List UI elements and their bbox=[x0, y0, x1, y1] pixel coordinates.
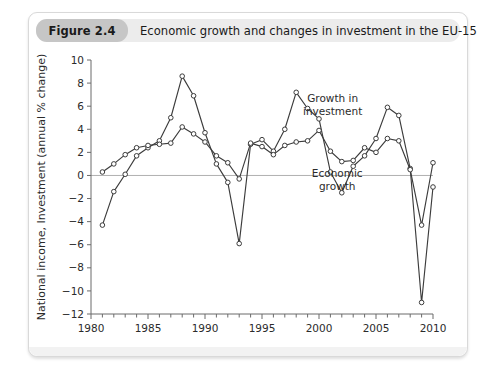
svg-text:−12: −12 bbox=[62, 308, 84, 320]
data-point bbox=[431, 160, 436, 165]
data-point bbox=[134, 145, 139, 150]
svg-text:Growth in: Growth in bbox=[307, 92, 358, 104]
data-point bbox=[112, 189, 117, 194]
figure-card: Figure 2.4 Economic growth and changes i… bbox=[28, 12, 468, 357]
chart-annotations: Growth ininvestmentEconomicgrowth bbox=[303, 92, 363, 192]
svg-text:1980: 1980 bbox=[78, 322, 105, 334]
data-point bbox=[374, 150, 379, 155]
data-point bbox=[180, 74, 185, 79]
data-point bbox=[226, 180, 231, 185]
data-point bbox=[214, 162, 219, 167]
data-point bbox=[260, 137, 265, 142]
chart-plot-region: National income, Investment (annual % ch… bbox=[29, 42, 469, 358]
data-point bbox=[248, 141, 253, 146]
data-point bbox=[112, 162, 117, 167]
data-point bbox=[100, 170, 105, 175]
chart-series bbox=[100, 74, 435, 305]
svg-text:−10: −10 bbox=[62, 285, 84, 297]
y-axis-ticks: −12−10−8−6−4−20246810 bbox=[62, 54, 91, 320]
svg-text:−4: −4 bbox=[69, 215, 85, 227]
data-point bbox=[157, 142, 162, 147]
figure-number-badge: Figure 2.4 bbox=[36, 19, 128, 42]
data-point bbox=[226, 160, 231, 165]
svg-text:10: 10 bbox=[71, 54, 84, 66]
data-point bbox=[123, 152, 128, 157]
data-point bbox=[146, 143, 151, 148]
data-point bbox=[203, 140, 208, 145]
data-point bbox=[283, 127, 288, 132]
data-point bbox=[134, 154, 139, 159]
series-line bbox=[102, 127, 433, 225]
data-point bbox=[294, 90, 299, 95]
data-point bbox=[431, 185, 436, 190]
data-point bbox=[317, 117, 322, 122]
data-point bbox=[397, 139, 402, 144]
svg-text:−6: −6 bbox=[69, 238, 85, 250]
data-point bbox=[100, 223, 105, 228]
series-line bbox=[102, 76, 433, 302]
data-point bbox=[191, 132, 196, 137]
svg-text:6: 6 bbox=[77, 100, 84, 112]
data-point bbox=[419, 223, 424, 228]
svg-text:−2: −2 bbox=[69, 192, 84, 204]
svg-text:2010: 2010 bbox=[420, 322, 447, 334]
data-point bbox=[385, 105, 390, 110]
svg-text:1985: 1985 bbox=[135, 322, 162, 334]
chart-axes bbox=[91, 60, 433, 314]
svg-text:National income, Investment (a: National income, Investment (annual % ch… bbox=[35, 54, 48, 320]
data-point bbox=[180, 125, 185, 130]
svg-text:Economic: Economic bbox=[312, 167, 363, 179]
line-chart: National income, Investment (annual % ch… bbox=[29, 42, 469, 358]
card-footer-strip bbox=[29, 347, 467, 356]
data-point bbox=[237, 241, 242, 246]
figure-header: Figure 2.4 Economic growth and changes i… bbox=[36, 19, 460, 42]
data-point bbox=[362, 154, 367, 159]
data-point bbox=[214, 154, 219, 159]
data-point bbox=[305, 139, 310, 144]
svg-text:−8: −8 bbox=[69, 261, 84, 273]
data-point bbox=[385, 136, 390, 141]
data-point bbox=[408, 167, 413, 172]
data-point bbox=[419, 300, 424, 305]
data-point bbox=[169, 141, 174, 146]
data-point bbox=[328, 149, 333, 154]
svg-text:2: 2 bbox=[77, 146, 84, 158]
svg-text:investment: investment bbox=[303, 105, 362, 117]
data-point bbox=[283, 143, 288, 148]
svg-text:2005: 2005 bbox=[363, 322, 390, 334]
data-point bbox=[203, 130, 208, 135]
svg-text:1995: 1995 bbox=[249, 322, 276, 334]
data-point bbox=[340, 159, 345, 164]
data-point bbox=[271, 152, 276, 157]
data-point bbox=[362, 145, 367, 150]
svg-text:2000: 2000 bbox=[306, 322, 333, 334]
svg-text:0: 0 bbox=[77, 169, 84, 181]
svg-text:1990: 1990 bbox=[192, 322, 219, 334]
data-point bbox=[191, 93, 196, 98]
data-point bbox=[294, 140, 299, 145]
data-point bbox=[351, 158, 356, 163]
data-point bbox=[317, 128, 322, 133]
data-point bbox=[123, 172, 128, 177]
y-axis-title: National income, Investment (annual % ch… bbox=[35, 54, 48, 320]
figure-title: Economic growth and changes in investmen… bbox=[140, 19, 477, 42]
svg-text:8: 8 bbox=[77, 77, 84, 89]
data-point bbox=[169, 115, 174, 120]
svg-text:4: 4 bbox=[77, 123, 84, 135]
data-point bbox=[260, 144, 265, 149]
svg-text:growth: growth bbox=[319, 180, 356, 192]
data-point bbox=[237, 177, 242, 182]
x-axis-ticks: 1980198519901995200020052010 bbox=[78, 314, 447, 334]
data-point bbox=[397, 113, 402, 118]
data-point bbox=[374, 136, 379, 141]
